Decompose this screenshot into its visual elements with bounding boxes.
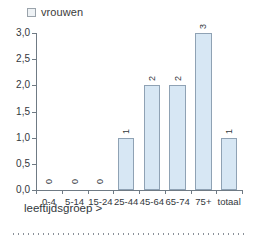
bar <box>169 85 185 190</box>
bar-value-label: 0 <box>96 179 105 184</box>
decorative-dotted-rule <box>11 233 244 235</box>
bar-value-label: 2 <box>173 76 182 81</box>
y-tick-label: 2,5 <box>16 54 30 64</box>
y-tick <box>32 85 36 86</box>
bar-value-label: 1 <box>225 129 234 134</box>
bar-value-label: 3 <box>199 24 208 29</box>
x-category-label: totaal <box>218 197 241 207</box>
x-tick <box>216 190 217 194</box>
y-tick-label: 3,0 <box>16 28 30 38</box>
y-tick <box>32 112 36 113</box>
legend-label-vrouwen: vrouwen <box>41 7 83 18</box>
x-tick <box>191 190 192 194</box>
chart-legend: vrouwen <box>27 7 83 18</box>
x-category-label: 65-74 <box>165 197 189 207</box>
bar-value-label: 1 <box>122 129 131 134</box>
x-category-label: 75+ <box>195 197 211 207</box>
bar <box>118 138 134 190</box>
x-tick <box>242 190 243 194</box>
x-tick <box>36 190 37 194</box>
x-tick <box>139 190 140 194</box>
x-axis-title: leeftijdsgroep > <box>24 202 102 214</box>
y-tick-label: 2,0 <box>16 80 30 90</box>
bar-value-label: 0 <box>70 179 79 184</box>
y-tick <box>32 138 36 139</box>
y-tick-label: 1,0 <box>16 133 30 143</box>
bar-value-label: 0 <box>44 179 53 184</box>
x-tick <box>62 190 63 194</box>
y-tick <box>32 33 36 34</box>
x-tick <box>113 190 114 194</box>
x-category-label: 45-64 <box>140 197 164 207</box>
legend-swatch-icon <box>27 8 36 17</box>
bar <box>195 33 211 190</box>
x-tick <box>88 190 89 194</box>
x-category-label: 25-44 <box>114 197 138 207</box>
x-tick <box>165 190 166 194</box>
y-tick <box>32 59 36 60</box>
y-axis-line <box>36 33 37 191</box>
y-tick-label: 0,0 <box>16 185 30 195</box>
y-tick-label: 0,5 <box>16 159 30 169</box>
y-tick <box>32 164 36 165</box>
bar-value-label: 2 <box>147 76 156 81</box>
bar <box>144 85 160 190</box>
plot-area: 0,00,51,01,52,02,53,0 00012231 0-45-1415… <box>36 33 242 190</box>
bar <box>221 138 237 190</box>
bar-chart-figure: vrouwen 0,00,51,01,52,02,53,0 00012231 0… <box>0 0 255 244</box>
y-tick-label: 1,5 <box>16 107 30 117</box>
